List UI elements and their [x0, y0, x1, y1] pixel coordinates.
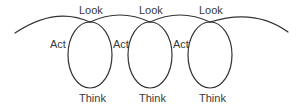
arc-2: [90, 15, 150, 22]
loop-ellipse-3: [188, 22, 232, 88]
look-label-3: Look: [199, 4, 223, 16]
act-label-2: Act: [113, 38, 129, 50]
think-label-2: Think: [139, 92, 166, 104]
think-label-1: Think: [79, 92, 106, 104]
arc-1: [15, 16, 90, 33]
loop-ellipse-1: [68, 22, 112, 88]
look-label-1: Look: [79, 4, 103, 16]
look-label-2: Look: [139, 4, 163, 16]
arc-4: [210, 17, 288, 32]
arc-3: [150, 15, 210, 22]
act-label-1: Act: [50, 38, 66, 50]
think-label-3: Think: [199, 92, 226, 104]
loop-ellipse-2: [128, 22, 172, 88]
act-label-3: Act: [173, 38, 189, 50]
